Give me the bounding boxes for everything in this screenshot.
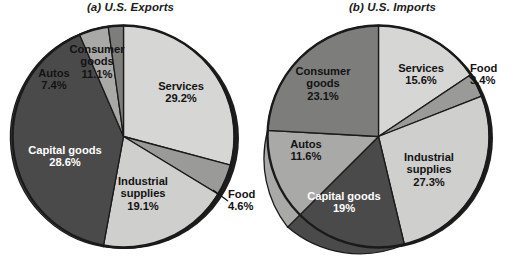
imports-label-food-name: Food bbox=[470, 62, 497, 74]
imports-slice-consumer[interactable] bbox=[268, 25, 379, 136]
exports-pie-svg bbox=[0, 0, 261, 256]
exports-label-food-value: 4.6% bbox=[228, 200, 254, 212]
imports-label-food: Food 3.4% bbox=[470, 62, 497, 87]
imports-pie-svg bbox=[262, 0, 523, 256]
exports-label-food: Food 4.6% bbox=[228, 188, 255, 213]
panel-us-exports: (a) U.S. Exports Ser bbox=[0, 0, 261, 256]
exports-label-food-name: Food bbox=[228, 188, 255, 200]
figure-two-pie-charts: (a) U.S. Exports Ser bbox=[0, 0, 523, 256]
imports-label-food-value: 3.4% bbox=[470, 74, 496, 86]
panel-us-imports: (b) U.S. Imports Services bbox=[262, 0, 523, 256]
